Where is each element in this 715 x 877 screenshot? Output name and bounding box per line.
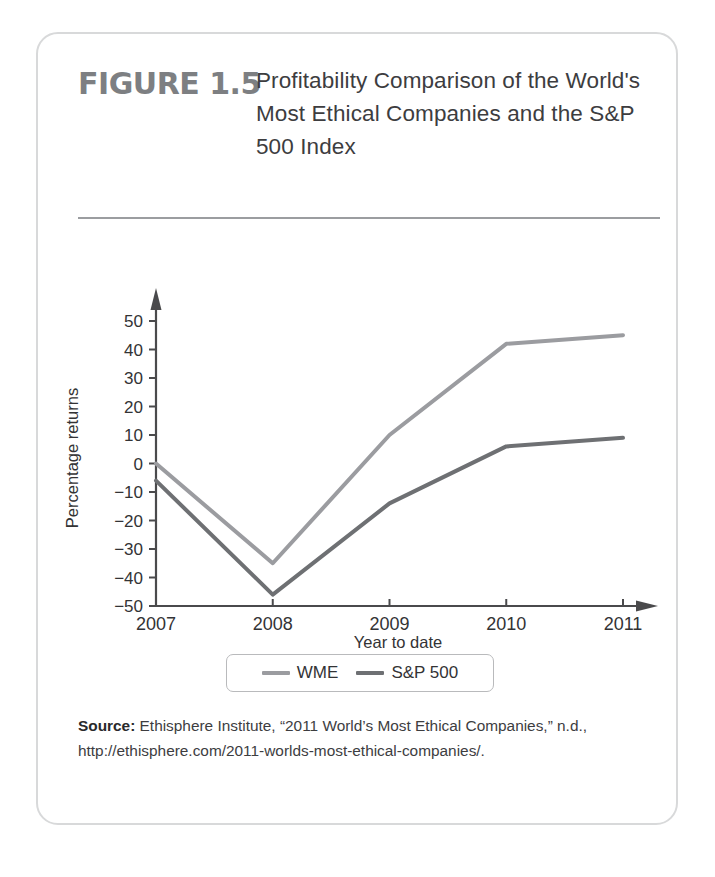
legend-entry-wme: WME [262, 663, 339, 683]
series-line-wme [156, 335, 623, 563]
y-tick-label: −20 [114, 512, 143, 531]
y-tick-label: 30 [124, 369, 143, 388]
x-axis-arrowhead [636, 601, 658, 612]
y-axis [151, 288, 162, 606]
chart-series-group [156, 335, 623, 594]
y-tick-label: 0 [134, 455, 143, 474]
legend-entry-sp500: S&P 500 [356, 663, 458, 683]
y-tick-label: 50 [124, 312, 143, 331]
y-tick-label: −40 [114, 569, 143, 588]
source-label: Source: [78, 717, 135, 734]
source-note: Source: Ethisphere Institute, “2011 Worl… [78, 714, 644, 763]
y-tick-label: 40 [124, 341, 143, 360]
y-tick-label: −10 [114, 483, 143, 502]
legend-swatch-sp500 [356, 671, 384, 675]
legend-label-sp500: S&P 500 [391, 663, 458, 683]
x-axis-ticks: 20072008200920102011 [136, 599, 642, 634]
figure-title: Profitability Comparison of the World's … [256, 64, 644, 163]
x-tick-label: 2010 [486, 614, 526, 634]
source-text: Ethisphere Institute, “2011 World’s Most… [78, 717, 587, 759]
x-axis-title: Year to date [354, 633, 442, 650]
figure-header: FIGURE 1.5 Profitability Comparison of t… [78, 64, 644, 163]
legend-swatch-wme [262, 671, 290, 675]
figure-number: FIGURE 1.5 [78, 64, 256, 104]
y-axis-arrowhead [151, 288, 162, 310]
line-chart-svg: 50403020100−10−20−30−40−50 2007200820092… [38, 230, 676, 650]
figure-card: FIGURE 1.5 Profitability Comparison of t… [36, 32, 678, 825]
x-tick-label: 2011 [604, 614, 643, 634]
header-divider [78, 217, 660, 219]
series-line-s-p-500 [156, 438, 623, 595]
x-axis [156, 601, 658, 612]
y-axis-title: Percentage returns [63, 388, 81, 528]
chart-plot-area: 50403020100−10−20−30−40−50 2007200820092… [38, 230, 676, 650]
y-tick-label: −30 [114, 540, 143, 559]
y-axis-ticks: 50403020100−10−20−30−40−50 [114, 312, 156, 616]
x-tick-label: 2008 [253, 614, 293, 634]
y-tick-label: 10 [124, 426, 143, 445]
chart-legend: WME S&P 500 [226, 654, 494, 692]
x-tick-label: 2009 [369, 614, 409, 634]
x-tick-label: 2007 [136, 614, 176, 634]
y-tick-label: 20 [124, 398, 143, 417]
legend-label-wme: WME [297, 663, 339, 683]
